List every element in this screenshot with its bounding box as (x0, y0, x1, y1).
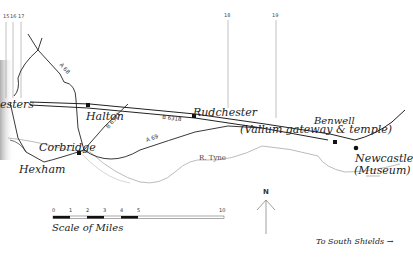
newcastle-marker (354, 146, 359, 151)
scale-tick-3: 3 (103, 208, 106, 213)
label-river-tyne: R. Tyne (199, 155, 226, 162)
milecastle-lines (6, 20, 276, 118)
north-label: N (263, 189, 269, 196)
scale-tick-0: 0 (52, 208, 55, 213)
label-benwell: Benwell (314, 116, 355, 126)
milecastle-19: 19 (272, 13, 278, 18)
label-corbridge: Corbridge (39, 142, 96, 153)
halton-marker (86, 103, 90, 107)
direction-note: To South Shields → (316, 238, 393, 246)
scale-tick-2: 2 (86, 208, 89, 213)
benwell-marker (333, 140, 337, 144)
milecastle-15: 15 (3, 14, 9, 19)
milecastle-16: 16 (10, 14, 16, 19)
road-a68 (14, 34, 84, 150)
north-arrow-icon (257, 200, 275, 234)
label-rudchester: Rudchester (193, 107, 257, 118)
scale-bar (53, 216, 224, 219)
milecastle-17: 17 (18, 14, 24, 19)
label-newcastle-note: (Museum) (354, 165, 411, 176)
scale-caption: Scale of Miles (52, 223, 123, 233)
scale-tick-10: 10 (219, 208, 225, 213)
label-hexham: Hexham (19, 164, 65, 175)
label-newcastle: Newcastle (355, 153, 413, 164)
scale-tick-4: 4 (120, 208, 123, 213)
scale-tick-1: 1 (69, 208, 72, 213)
milecastle-18: 18 (224, 13, 230, 18)
scale-tick-5: 5 (137, 208, 140, 213)
label-chesters: esters (0, 99, 34, 110)
road-a69 (84, 126, 262, 159)
